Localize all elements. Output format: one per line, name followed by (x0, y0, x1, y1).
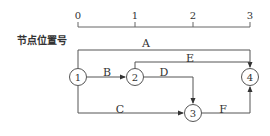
node-2: 2 (126, 68, 144, 86)
node-4: 4 (241, 68, 259, 86)
axis-tick-1: 1 (132, 11, 138, 21)
axis-label: 节点位置号 (17, 36, 67, 46)
axis-tick-0: 0 (75, 11, 81, 21)
activity-label-d: D (160, 67, 169, 78)
activity-label-e: E (186, 53, 194, 64)
activity-label-f: F (219, 104, 227, 115)
axis-tick-3: 3 (247, 11, 253, 21)
activity-label-b: B (103, 67, 111, 78)
activity-c-arrow (78, 86, 183, 113)
network-diagram: 0 1 2 3 节点位置号 A E B D C F 1 2 3 4 (0, 0, 270, 136)
activity-label-c: C (116, 104, 124, 115)
axis-tick-2: 2 (190, 11, 196, 21)
node-3: 3 (184, 104, 202, 122)
node-1: 1 (69, 68, 87, 86)
activity-label-a: A (142, 38, 150, 49)
activity-d-arrow (144, 77, 193, 103)
position-axis (78, 22, 250, 27)
